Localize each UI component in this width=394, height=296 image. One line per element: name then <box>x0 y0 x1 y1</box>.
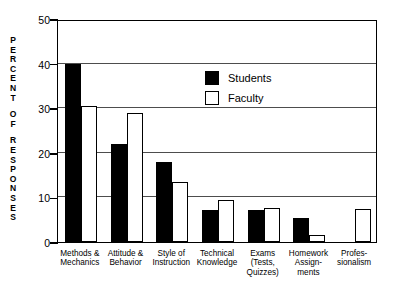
x-axis-tick-label: Methods & Mechanics <box>57 249 103 268</box>
y-axis-title-word-percent: P E R C E N T <box>5 36 21 103</box>
y-axis-tick-label: 30 <box>26 104 50 114</box>
y-axis-tick-label: 50 <box>26 15 50 25</box>
legend-swatch-students-icon <box>205 71 219 85</box>
y-axis-tick-label: 40 <box>26 60 50 70</box>
x-axis-tick-label: Technical Knowledge <box>194 249 240 268</box>
bar-students-0 <box>65 64 81 242</box>
y-axis-title-word-of: O F <box>5 110 21 129</box>
y-axis-tick-label: 10 <box>26 193 50 203</box>
legend-item-students: Students <box>205 68 271 88</box>
legend-swatch-faculty-icon <box>205 91 219 105</box>
bar-students-1 <box>111 144 127 242</box>
y-axis-title-letter: T <box>5 94 21 104</box>
bar-faculty-1 <box>127 113 143 242</box>
y-axis-tick-label: 0 <box>26 238 50 248</box>
bar-faculty-3 <box>218 200 234 242</box>
x-axis-tick-label: Exams (Tests, Quizzes) <box>240 249 286 277</box>
x-axis-tick-label: Profes- sionalism <box>331 249 377 268</box>
bar-faculty-5 <box>309 235 325 242</box>
bars-layer <box>58 21 376 242</box>
bar-students-5 <box>293 218 309 242</box>
y-axis-title-letter: S <box>5 213 21 223</box>
x-axis-tick-label: Homework Assign- ments <box>286 249 332 277</box>
bar-faculty-0 <box>81 106 97 242</box>
bar-faculty-2 <box>172 182 188 242</box>
legend: Students Faculty <box>205 68 271 108</box>
y-axis-tick-label: 20 <box>26 149 50 159</box>
bar-students-2 <box>156 162 172 242</box>
y-axis-title-word-responses: R E S P O N S E S <box>5 136 21 222</box>
y-axis-title-letter: F <box>5 120 21 130</box>
legend-item-faculty: Faculty <box>205 88 271 108</box>
plot-area: Students Faculty <box>57 20 377 243</box>
y-axis-title: P E R C E N T O F R E S P O N S E S <box>5 36 21 223</box>
bar-students-3 <box>202 210 218 242</box>
legend-label-faculty: Faculty <box>228 93 263 104</box>
bar-students-4 <box>248 210 264 242</box>
bar-chart-figure: P E R C E N T O F R E S P O N S E S 0102… <box>0 0 394 296</box>
bar-faculty-6 <box>355 209 371 242</box>
x-axis-tick-label: Attitude & Behavior <box>103 249 149 268</box>
bar-faculty-4 <box>264 208 280 242</box>
legend-label-students: Students <box>228 73 271 84</box>
x-axis-tick-label: Style of Instruction <box>148 249 194 268</box>
